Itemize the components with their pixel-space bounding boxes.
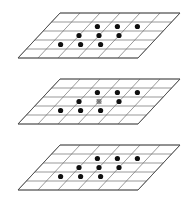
top-plane-dot: [78, 42, 83, 47]
lattice-planes-group: [18, 13, 180, 190]
middle-plane-dot: [115, 90, 120, 95]
middle-plane-dot: [76, 99, 81, 104]
bottom-plane-dot: [98, 174, 103, 179]
bottom-plane-dot: [78, 174, 83, 179]
top-plane-dot: [116, 33, 121, 38]
top-plane-dot: [135, 24, 140, 29]
lattice-diagram-canvas: [0, 0, 192, 206]
top-plane-dot: [115, 24, 120, 29]
middle-plane-dot: [98, 108, 103, 113]
top-plane-dot: [98, 42, 103, 47]
bottom-plane-dot: [58, 174, 63, 179]
bottom-plane-dot: [96, 165, 101, 170]
lattice-figure: [0, 0, 192, 206]
top-plane-dot: [96, 33, 101, 38]
bottom-plane: [18, 145, 180, 190]
top-plane-dot: [95, 24, 100, 29]
middle-plane-dot: [58, 108, 63, 113]
top-plane: [18, 13, 180, 58]
top-plane-dot: [76, 33, 81, 38]
middle-plane-dot: [78, 108, 83, 113]
middle-plane: [18, 79, 180, 124]
bottom-plane-dot: [116, 165, 121, 170]
top-plane-dot: [58, 42, 63, 47]
middle-plane-dot: [116, 99, 121, 104]
bottom-plane-dot: [135, 156, 140, 161]
bottom-plane-dot: [95, 156, 100, 161]
bottom-plane-dot: [115, 156, 120, 161]
bottom-plane-dot: [76, 165, 81, 170]
middle-plane-dot: [135, 90, 140, 95]
middle-plane-dot: [95, 90, 100, 95]
